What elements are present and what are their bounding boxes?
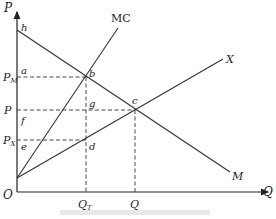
- price-px-label: PX: [2, 134, 16, 148]
- m-curve-label: M: [231, 170, 244, 183]
- point-f: f: [20, 115, 27, 126]
- point-g: g: [89, 98, 95, 109]
- x-curve: [17, 59, 223, 178]
- economics-diagram: P Q O MC X M PM P PX QT Q h a b g c f e …: [0, 0, 276, 219]
- point-d: d: [89, 141, 95, 152]
- figure-caption-faint: [60, 210, 210, 215]
- m-curve: [17, 30, 230, 172]
- dashed-guides: [17, 77, 135, 192]
- x-curve-label: X: [225, 53, 235, 66]
- mc-label: MC: [111, 12, 131, 25]
- point-a: a: [21, 65, 27, 76]
- axis-label-q: Q: [263, 185, 273, 199]
- point-c: c: [132, 95, 138, 106]
- point-h: h: [21, 22, 27, 33]
- point-b: b: [89, 68, 95, 79]
- price-pm-label: PM: [2, 71, 18, 85]
- origin-label: O: [3, 188, 13, 202]
- axis-label-p: P: [3, 1, 13, 15]
- mc-curve: [17, 28, 118, 178]
- price-p-label: P: [3, 104, 12, 117]
- point-e: e: [21, 141, 27, 152]
